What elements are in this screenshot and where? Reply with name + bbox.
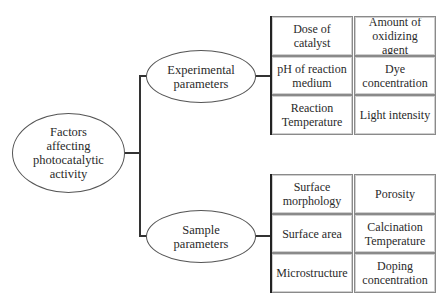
experimental-parameters-grid: Dose of catalyst Amount of oxidizing age… [270,16,436,135]
grid-cell: Dye concentration [354,56,436,95]
connector-sample-to-grid [255,235,271,237]
grid-cell: Amount of oxidizing agent [354,16,436,56]
grid-cell: Microstructure [271,253,353,293]
grid-cell: Reaction Temperature [271,95,353,135]
connector-trunk-vertical [139,75,141,237]
connector-experimental-to-grid [255,75,271,77]
grid-cell: Calcination Temperature [354,214,436,253]
experimental-parameters-label: Experimental parameters [167,63,234,91]
root-node-label: Factors affecting photocatalytic activit… [33,125,104,181]
grid-left-border [270,16,272,135]
grid-cell: Surface morphology [271,174,353,214]
sample-parameters-ellipse: Sample parameters [146,210,256,263]
experimental-parameters-ellipse: Experimental parameters [146,50,256,103]
sample-parameters-grid: Surface morphology Porosity Surface area… [270,174,436,293]
grid-left-border [270,174,272,293]
diagram-canvas: Factors affecting photocatalytic activit… [0,0,447,304]
grid-cell: Surface area [271,214,353,253]
grid-cell: Doping concentration [354,253,436,293]
root-node-ellipse: Factors affecting photocatalytic activit… [12,113,125,193]
grid-cell: Light intensity [354,95,436,135]
sample-parameters-label: Sample parameters [174,223,229,251]
grid-cell: Dose of catalyst [271,16,353,56]
grid-cell: Porosity [354,174,436,214]
grid-cell: pH of reaction medium [271,56,353,95]
